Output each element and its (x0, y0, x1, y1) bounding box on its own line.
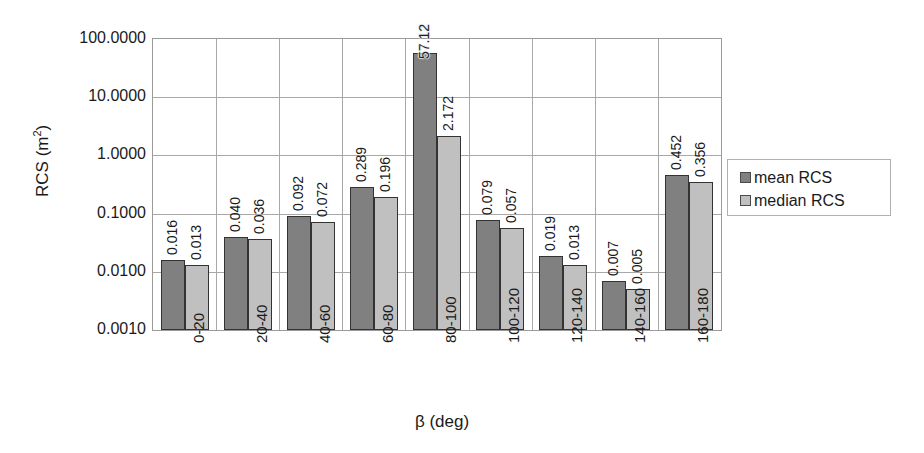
bar-value-label: 57.12 (417, 24, 431, 59)
bar-mean (161, 260, 185, 330)
y-axis-title-tail: ) (33, 125, 52, 131)
y-axis-tick-label: 100.0000 (58, 30, 146, 46)
x-axis-tick-label: 0-20 (191, 313, 206, 343)
x-axis-tick-label: 160-180 (695, 288, 710, 343)
y-axis-tick-label: 1.0000 (58, 146, 146, 162)
bar-mean (602, 281, 626, 330)
x-axis-tick-label: 100-120 (506, 288, 521, 343)
bar-value-label: 0.040 (228, 197, 242, 232)
x-axis-tick-label: 40-60 (317, 305, 332, 343)
legend-swatch-median-icon (740, 195, 751, 206)
y-axis-title-exponent: 2 (31, 130, 43, 136)
bar-value-label: 0.019 (543, 216, 557, 251)
gridline-vertical (279, 39, 280, 330)
rcs-bar-chart: RCS (m2) 100.000010.00001.00000.10000.01… (0, 0, 924, 453)
x-axis-title: β (deg) (352, 412, 532, 432)
bar-value-label: 0.057 (504, 188, 518, 223)
gridline-vertical (532, 39, 533, 330)
x-axis-tick-label: 120-140 (569, 288, 584, 343)
legend-swatch-mean-icon (740, 172, 751, 183)
bar-mean (539, 256, 563, 330)
bar-value-label: 0.452 (669, 135, 683, 170)
bar-value-label: 0.013 (189, 225, 203, 260)
bar-value-label: 0.007 (606, 241, 620, 276)
y-axis-tick-label: 0.1000 (58, 205, 146, 221)
legend-item-mean-rcs[interactable]: mean RCS (740, 167, 890, 188)
bar-mean (413, 53, 437, 330)
x-axis-tick-label: 80-100 (443, 296, 458, 343)
legend-label-median: median RCS (754, 193, 845, 209)
bar-mean (224, 237, 248, 330)
y-axis-tick-label: 0.0100 (58, 263, 146, 279)
bar-value-label: 0.092 (291, 176, 305, 211)
gridline-vertical (405, 39, 406, 330)
gridline-vertical (216, 39, 217, 330)
y-axis-tick-label: 0.0010 (58, 321, 146, 337)
bar-value-label: 0.005 (630, 249, 644, 284)
x-axis-tick-label: 60-80 (380, 305, 395, 343)
legend-item-median-rcs[interactable]: median RCS (740, 190, 890, 211)
bar-value-label: 0.196 (378, 157, 392, 192)
bar-value-label: 0.289 (354, 147, 368, 182)
gridline-vertical (469, 39, 470, 330)
legend-label-mean: mean RCS (754, 170, 832, 186)
gridline-vertical (595, 39, 596, 330)
bar-value-label: 0.356 (693, 141, 707, 176)
bar-mean (476, 220, 500, 330)
bar-value-label: 0.036 (252, 199, 266, 234)
gridline-vertical (342, 39, 343, 330)
bar-value-label: 0.016 (165, 220, 179, 255)
bar-mean (287, 216, 311, 330)
x-axis-tick-label: 20-40 (254, 305, 269, 343)
gridline-vertical (658, 39, 659, 330)
y-axis-title: RCS (m2) (31, 101, 53, 221)
y-axis-tick-labels: 100.000010.00001.00000.10000.01000.0010 (56, 0, 146, 453)
bar-mean (665, 175, 689, 330)
y-axis-tick-label: 10.0000 (58, 88, 146, 104)
bar-mean (350, 187, 374, 330)
bar-value-label: 0.079 (480, 180, 494, 215)
bar-value-label: 0.013 (567, 225, 581, 260)
gridline-horizontal (153, 97, 721, 98)
legend: mean RCS median RCS (727, 159, 891, 216)
bar-value-label: 2.172 (441, 96, 455, 131)
y-axis-title-base: RCS (m (33, 137, 52, 197)
bar-value-label: 0.072 (315, 182, 329, 217)
x-axis-tick-label: 140-160 (632, 288, 647, 343)
